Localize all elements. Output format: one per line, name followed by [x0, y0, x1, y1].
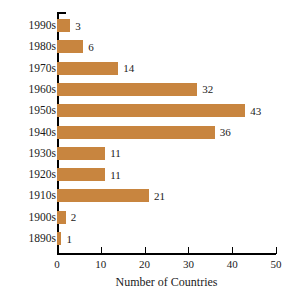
x-tick-10	[101, 247, 102, 254]
bar-row: 2	[57, 211, 276, 224]
x-tick-20	[145, 247, 146, 254]
bar-row: 1	[57, 232, 276, 245]
bar-row: 6	[57, 40, 276, 53]
bar-row: 3	[57, 19, 276, 32]
bar-row: 11	[57, 168, 276, 181]
bar-1940s	[57, 126, 215, 139]
x-tick-30	[188, 247, 189, 254]
x-tick-label-20: 20	[133, 257, 157, 271]
category-label-1910s: 1910s	[29, 188, 56, 202]
x-tick-50	[276, 247, 277, 254]
x-tick-label-0: 0	[45, 257, 69, 271]
x-tick-label-40: 40	[220, 257, 244, 271]
bar-value-1990s: 3	[75, 20, 81, 32]
bar-value-1970s: 14	[123, 62, 134, 74]
bar-1970s	[57, 62, 118, 75]
bar-value-1930s: 11	[110, 147, 121, 159]
bar-value-1980s: 6	[88, 41, 94, 53]
bar-1980s	[57, 40, 83, 53]
bar-row: 11	[57, 147, 276, 160]
bar-1960s	[57, 83, 197, 96]
bar-value-1960s: 32	[202, 83, 213, 95]
bar-1950s	[57, 104, 245, 117]
category-label-1990s: 1990s	[29, 18, 56, 32]
category-label-1970s: 1970s	[29, 61, 56, 75]
bar-value-1890s: 1	[66, 233, 72, 245]
category-label-1980s: 1980s	[29, 39, 56, 53]
category-label-1960s: 1960s	[29, 82, 56, 96]
bar-1910s	[57, 189, 149, 202]
x-tick-0	[57, 247, 58, 254]
bar-value-1910s: 21	[154, 190, 165, 202]
bar-row: 36	[57, 126, 276, 139]
x-tick-label-30: 30	[176, 257, 200, 271]
x-axis-line	[57, 253, 276, 255]
category-label-1920s: 1920s	[29, 167, 56, 181]
bar-row: 14	[57, 62, 276, 75]
x-tick-40	[232, 247, 233, 254]
category-label-1940s: 1940s	[29, 125, 56, 139]
plot-area: 01020304050 361432433611112121 1990s1980…	[0, 0, 288, 300]
y-axis-top-cap	[57, 12, 66, 14]
bar-1890s	[57, 232, 61, 245]
x-tick-label-50: 50	[264, 257, 288, 271]
bar-row: 43	[57, 104, 276, 117]
bar-row: 21	[57, 189, 276, 202]
category-label-1890s: 1890s	[29, 231, 56, 245]
bar-value-1940s: 36	[220, 126, 231, 138]
bar-1990s	[57, 19, 70, 32]
bar-chart: 01020304050 361432433611112121 1990s1980…	[0, 0, 288, 300]
category-label-1950s: 1950s	[29, 103, 56, 117]
category-label-1930s: 1930s	[29, 146, 56, 160]
bar-1900s	[57, 211, 66, 224]
bar-value-1900s: 2	[71, 211, 77, 223]
x-tick-label-10: 10	[89, 257, 113, 271]
bar-1920s	[57, 168, 105, 181]
bar-1930s	[57, 147, 105, 160]
x-axis-title: Number of Countries	[57, 275, 276, 290]
bar-row: 32	[57, 83, 276, 96]
bar-value-1920s: 11	[110, 169, 121, 181]
category-label-1900s: 1900s	[29, 210, 56, 224]
bar-value-1950s: 43	[250, 105, 261, 117]
